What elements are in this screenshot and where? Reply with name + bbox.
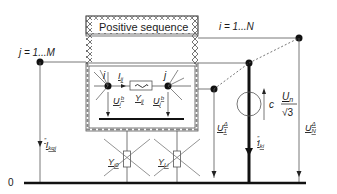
label-ujb: Ujb — [153, 95, 165, 107]
label-ikqj: Ikqj″ — [44, 137, 57, 151]
shunt-li-resistor-icon — [174, 151, 181, 167]
label-iij: Iij — [118, 71, 124, 82]
label-u1: U1Δ — [217, 121, 228, 134]
label-source-un: Un — [282, 91, 293, 103]
label-i-range: i = 1...N — [219, 21, 255, 32]
label-j-range: j = 1...M — [17, 47, 56, 58]
positive-sequence-label: Positive sequence — [99, 21, 188, 33]
label-node-i: i — [103, 70, 106, 81]
label-yij: Yij — [135, 93, 144, 104]
arrow-uj-icon — [166, 112, 170, 117]
arrow-UN — [297, 171, 302, 177]
label-ground: 0 — [8, 177, 14, 188]
arrow-iij — [121, 84, 126, 88]
shunt-i0-resistor-icon — [124, 151, 131, 167]
label-node-j: j — [162, 70, 167, 81]
label-uib: Uib — [113, 95, 125, 107]
label-un: UNΔ — [305, 121, 317, 134]
arrow-iki — [245, 148, 253, 156]
arrow-ui-icon — [106, 112, 110, 117]
label-iki: Iki″ — [257, 135, 265, 149]
label-yi0: Yi0 — [108, 157, 119, 168]
label-source-c: c — [269, 99, 274, 110]
impedance-yij-icon — [130, 81, 152, 90]
label-source-sqrt3: √3 — [282, 107, 293, 118]
label-yli: YLi — [158, 157, 169, 168]
dotted-link-1 — [214, 63, 249, 89]
dotted-link-2 — [249, 38, 299, 63]
circuit-diagram: Positive sequence — [0, 0, 337, 194]
node-j-fan — [168, 70, 184, 100]
source-arrow-icon — [262, 88, 266, 94]
arrow-ikqj — [38, 141, 43, 147]
arrow-U1 — [212, 171, 217, 177]
